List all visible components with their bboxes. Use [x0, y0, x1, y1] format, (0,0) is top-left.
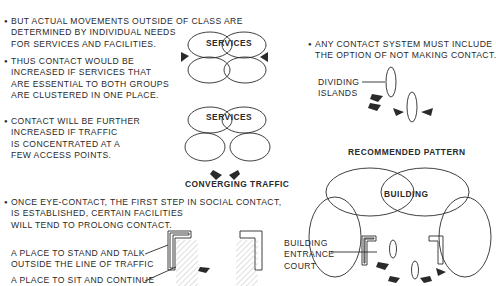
services-label-2: SERVICES: [206, 112, 252, 122]
services-label-1: SERVICES: [206, 38, 252, 48]
bullet-traffic-concentrated: CONTACT WILL BE FURTHER INCREASED IF TRA…: [11, 116, 140, 162]
bullet-services-clustered: THUS CONTACT WOULD BE INCREASED IF SERVI…: [11, 56, 169, 102]
bullet-eye-contact: ONCE EYE-CONTACT, THE FIRST STEP IN SOCI…: [11, 197, 281, 231]
callout-sit-continue: A PLACE TO SIT AND CONTINUE: [11, 275, 155, 286]
converging-traffic-label: CONVERGING TRAFFIC: [185, 179, 289, 189]
callout-stand-talk: A PLACE TO STAND AND TALK OUTSIDE THE LI…: [11, 248, 154, 271]
callout-building-entrance-court: BUILDING ENTRANCE COURT: [284, 238, 334, 272]
bullet-option-no-contact: ANY CONTACT SYSTEM MUST INCLUDE THE OPTI…: [315, 39, 496, 62]
building-label: BUILDING: [384, 189, 428, 199]
recommended-pattern-title: RECOMMENDED PATTERN: [348, 147, 466, 157]
callout-dividing-islands: DIVIDING ISLANDS: [318, 77, 359, 100]
